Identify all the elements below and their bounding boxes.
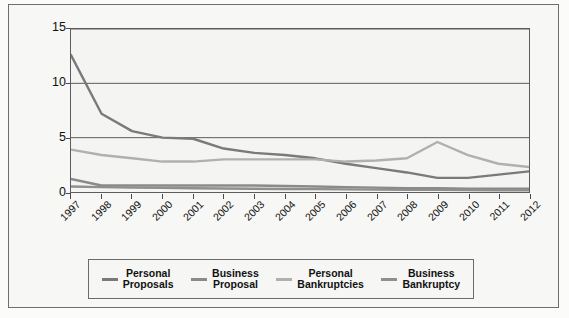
plot-svg <box>71 29 529 192</box>
legend-label-0: Personal Proposals <box>123 268 174 291</box>
legend-item-1[interactable]: Business Proposal <box>191 268 259 291</box>
legend-swatch-icon-3 <box>381 278 397 281</box>
x-tick-label-2009: 2009 <box>418 198 451 231</box>
legend-item-3[interactable]: Business Bankruptcy <box>381 268 460 291</box>
x-tick-label-2005: 2005 <box>295 198 328 231</box>
x-tick-mark-2009 <box>438 194 439 199</box>
legend-swatch-icon-2 <box>276 278 292 281</box>
x-tick-mark-1999 <box>131 194 132 199</box>
x-tick-label-2006: 2006 <box>326 198 359 231</box>
legend-label-3: Business Bankruptcy <box>402 268 460 291</box>
x-tick-label-2008: 2008 <box>387 198 420 231</box>
x-tick-mark-2010 <box>469 194 470 199</box>
x-tick-label-1999: 1999 <box>111 198 144 231</box>
legend-item-2[interactable]: Personal Bankruptcies <box>276 268 364 291</box>
x-tick-label-2011: 2011 <box>479 198 512 231</box>
x-tick-mark-2000 <box>162 194 163 199</box>
legend-label-1: Business Proposal <box>212 268 259 291</box>
x-tick-mark-2005 <box>315 194 316 199</box>
x-tick-mark-2002 <box>223 194 224 199</box>
legend-swatch-icon-0 <box>102 278 118 281</box>
x-tick-mark-1998 <box>101 194 102 199</box>
y-tick-label-5: 5 <box>40 130 66 144</box>
x-tick-mark-2012 <box>530 194 531 199</box>
legend-swatch-icon-1 <box>191 278 207 281</box>
x-tick-mark-2008 <box>407 194 408 199</box>
x-axis-labels: 1997199819992000200120022003200420052006… <box>70 194 530 246</box>
x-tick-mark-2006 <box>346 194 347 199</box>
x-tick-label-1998: 1998 <box>81 198 114 231</box>
y-tick-label-15: 15 <box>40 20 66 34</box>
x-tick-label-2010: 2010 <box>449 198 482 231</box>
chart-figure: Per 1,000 Population/Businesses 151050 1… <box>0 0 569 318</box>
y-tick-label-0: 0 <box>40 185 66 199</box>
legend-item-0[interactable]: Personal Proposals <box>102 268 174 291</box>
x-tick-mark-2007 <box>377 194 378 199</box>
x-tick-label-2000: 2000 <box>142 198 175 231</box>
series-line-2 <box>71 142 529 167</box>
x-tick-label-2001: 2001 <box>173 198 206 231</box>
y-tick-label-10: 10 <box>40 75 66 89</box>
x-tick-label-2004: 2004 <box>265 198 298 231</box>
y-axis-ticks: 151050 <box>38 28 66 193</box>
x-tick-mark-2001 <box>193 194 194 199</box>
x-tick-mark-2004 <box>285 194 286 199</box>
legend-label-2: Personal Bankruptcies <box>297 268 364 291</box>
x-tick-mark-1997 <box>70 194 71 199</box>
plot-area <box>70 28 530 193</box>
x-tick-label-2003: 2003 <box>234 198 267 231</box>
x-tick-label-2002: 2002 <box>203 198 236 231</box>
x-tick-mark-2011 <box>499 194 500 199</box>
x-tick-label-2007: 2007 <box>357 198 390 231</box>
x-tick-mark-2003 <box>254 194 255 199</box>
chart-legend: Personal ProposalsBusiness ProposalPerso… <box>88 259 474 299</box>
